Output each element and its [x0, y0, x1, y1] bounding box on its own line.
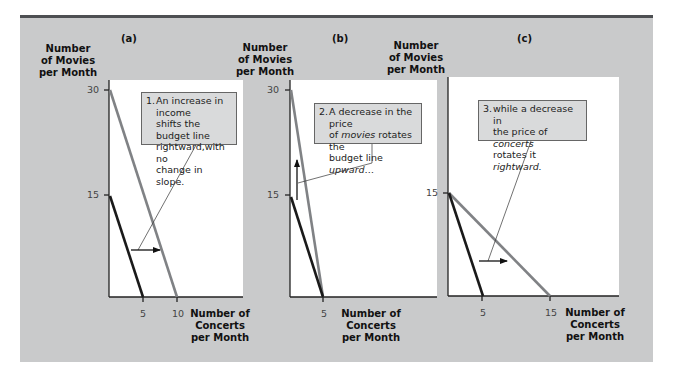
panel-c-original-budget-line — [449, 193, 483, 296]
panel-c-callout-leader — [488, 141, 531, 261]
panel-b-new-budget-line — [291, 90, 323, 297]
panel-b-callout-leader — [298, 144, 372, 183]
panel-a-callout-leader — [138, 145, 196, 250]
panel-c-axes — [443, 77, 619, 301]
panel-c-new-budget-line — [449, 193, 550, 296]
panel-a-new-budget-line — [110, 90, 177, 297]
panel-a-axes — [104, 80, 243, 302]
chart-lines-overlay — [0, 0, 675, 373]
panel-b-original-budget-line — [291, 197, 323, 297]
panel-a-original-budget-line — [110, 196, 143, 297]
